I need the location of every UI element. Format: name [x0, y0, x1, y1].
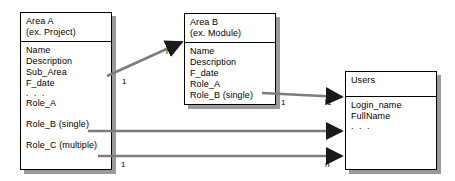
cardinality-area-a-to-area-b-source: 1 — [122, 77, 126, 86]
entity-name-area-b: Area B — [190, 17, 271, 28]
entity-box-area-a[interactable]: Area A (ex. Project) Name Description Su… — [20, 12, 112, 170]
attribute-row: Description — [190, 57, 271, 68]
entity-body-area-b: Name Description F_date Role_A Role_B (s… — [185, 43, 275, 104]
cardinality-area-b-role-b-to-users-source: 1 — [281, 98, 285, 107]
arrow-area-a-to-area-b — [107, 42, 182, 76]
entity-name-users: Users — [351, 75, 432, 86]
entity-box-users[interactable]: Users Login_name FullName . . . — [345, 71, 437, 170]
attribute-row-ellipsis: . . . — [26, 89, 107, 98]
attribute-row-role-c: Role_C (multiple) — [26, 140, 107, 151]
attribute-row-role-b: Role_B (single) — [190, 90, 271, 101]
entity-header-area-b: Area B (ex. Module) — [185, 14, 275, 43]
attribute-row: Role_A — [26, 98, 107, 109]
relationship-area-a-to-area-b — [107, 42, 182, 76]
attribute-row: Name — [190, 46, 271, 57]
attribute-row-role-b: Role_B (single) — [26, 119, 107, 130]
entity-box-area-b[interactable]: Area B (ex. Module) Name Description F_d… — [184, 13, 276, 105]
entity-name-area-a: Area A — [26, 16, 107, 27]
entity-body-users: Login_name FullName . . . — [346, 97, 436, 134]
attribute-row: F_date — [190, 68, 271, 79]
cardinality-area-a-role-c-to-users-source: 1 — [121, 160, 125, 169]
attribute-row-ellipsis: . . . — [351, 122, 432, 131]
entity-header-area-a: Area A (ex. Project) — [21, 13, 111, 42]
diagram-canvas: 1 n 1 1 1 n Area A (ex. Project) Name De… — [0, 0, 455, 181]
entity-body-area-a: Name Description Sub_Area F_date . . . R… — [21, 42, 111, 154]
attribute-row: Description — [26, 56, 107, 67]
cardinality-area-a-role-c-to-users-target: n — [325, 160, 329, 169]
entity-subtitle-area-b: (ex. Module) — [190, 28, 271, 39]
attribute-row: Sub_Area — [26, 67, 107, 78]
attribute-row: Name — [26, 45, 107, 56]
cardinality-area-a-to-area-b-target: n — [166, 47, 170, 56]
entity-header-users: Users — [346, 72, 436, 97]
attribute-row: Login_name — [351, 100, 432, 111]
attribute-row: Role_A — [190, 79, 271, 90]
entity-subtitle-area-a: (ex. Project) — [26, 27, 107, 38]
cardinality-area-b-role-b-to-users-target: 1 — [327, 98, 331, 107]
